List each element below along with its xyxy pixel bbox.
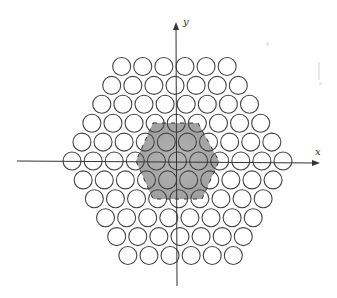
fiber-circle [118,209,136,227]
fiber-circle [252,114,270,132]
fiber-circle [213,228,231,246]
fiber-circle [208,76,226,94]
y-axis-label: y [183,17,189,27]
fiber-circle [182,247,200,265]
fiber-circle [198,95,216,113]
y-axis-arrowhead-icon [173,22,179,30]
fiber-circle [234,228,252,246]
fiber-circle [192,228,210,246]
fiber-circle [244,209,262,227]
fiber-circle [135,95,153,113]
fiber-circle [232,152,250,170]
fiber-circle [104,114,122,132]
fiber-circle [106,190,124,208]
fiber-circle [113,58,131,76]
fiber-circle [145,76,163,94]
fiber-circle [124,76,142,94]
fiber-circle [116,171,134,189]
fiber-circle [240,95,258,113]
fiber-circle [254,190,272,208]
fiber-circle [74,171,92,189]
fiber-circle [218,58,236,76]
fiber-circle [229,76,247,94]
x-axis-arrowhead-icon [312,160,320,166]
fiber-circle [125,114,143,132]
fiber-circle [233,190,251,208]
fiber-circle [203,247,221,265]
fiber-circle [114,95,132,113]
fiber-circle [264,171,282,189]
scan-artifact [318,62,320,80]
fiber-circle [139,209,157,227]
fiber-circle [222,171,240,189]
fiber-circle [243,171,261,189]
fiber-circle [85,190,103,208]
fiber-circle [197,58,215,76]
shaded-hexagon-region [136,123,219,199]
fiber-circle [83,114,101,132]
fiber-circle [176,58,194,76]
fiber-circle [155,58,173,76]
fiber-circle [212,190,230,208]
fiber-circle [177,95,195,113]
fiber-circle [128,190,146,208]
fiber-circle [93,95,111,113]
fiber-circle [105,152,123,170]
fiber-circle [161,247,179,265]
fiber-circle [231,114,249,132]
x-axis-label: x [315,147,321,157]
fiber-circle [140,247,158,265]
y-axis [176,26,177,286]
fiber-circle [223,209,241,227]
fiber-circle [181,209,199,227]
scan-artifact [319,82,322,85]
fiber-circle [166,76,184,94]
fiber-circle [224,247,242,265]
fiber-circle [209,114,227,132]
fiber-circle [171,228,189,246]
fiber-circle [73,133,91,151]
fiber-circle [119,247,137,265]
fiber-circle [202,209,220,227]
fiber-circle [242,133,260,151]
fiber-circle [94,133,112,151]
fiber-circle [115,133,133,151]
fiber-circle [108,228,126,246]
fiber-circle [263,133,281,151]
scan-artifact [266,42,269,46]
fiber-circle [253,152,271,170]
fiber-circle [134,58,152,76]
fiber-circle [95,171,113,189]
hex-packing-diagram: y x [0,0,337,298]
fiber-circle [221,133,239,151]
diagram-canvas [0,0,337,298]
fiber-circle [150,228,168,246]
fiber-circle [274,152,292,170]
fiber-circle [160,209,178,227]
fiber-circle [219,95,237,113]
fiber-circle [103,76,121,94]
fiber-circle [97,209,115,227]
fiber-circle [187,76,205,94]
fiber-circle [129,228,147,246]
fiber-circle [156,95,174,113]
